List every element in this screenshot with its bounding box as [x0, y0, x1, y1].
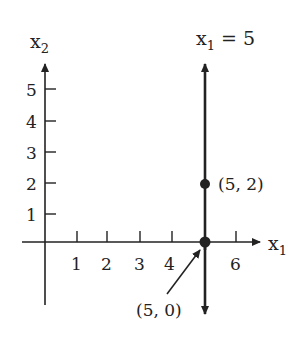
x-axis-label: x1 — [268, 232, 287, 258]
y-axis-label: x2 — [30, 30, 49, 56]
y-tick-label-4: 4 — [26, 112, 37, 132]
x-tick-label-3: 3 — [134, 254, 145, 274]
point-5-2 — [200, 179, 210, 189]
y-tick-label-5: 5 — [26, 80, 37, 100]
x-axis — [22, 231, 260, 242]
y-tick-label-1: 1 — [26, 205, 37, 225]
point-5-0 — [200, 237, 211, 248]
point-label-5-0: (5, 0) — [136, 300, 182, 320]
line-equation-label: x1 = 5 — [196, 27, 255, 53]
point-label-5-2: (5, 2) — [218, 174, 264, 194]
coordinate-plane-diagram: x2 x1 x1 = 5 5 4 3 2 1 1 2 3 4 6 (5, 2) … — [0, 0, 299, 338]
x-tick-label-1: 1 — [71, 254, 82, 274]
x-tick-label-4: 4 — [164, 254, 175, 274]
y-tick-label-2: 2 — [26, 174, 37, 194]
y-tick-label-3: 3 — [26, 143, 37, 163]
x-tick-label-6: 6 — [230, 254, 241, 274]
x-tick-label-2: 2 — [101, 254, 112, 274]
y-axis — [45, 64, 56, 305]
